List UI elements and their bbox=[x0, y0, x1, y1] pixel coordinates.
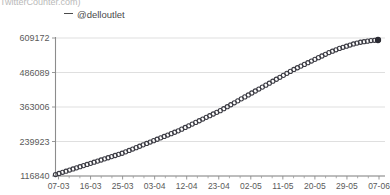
x-tick-label: 29-05 bbox=[336, 181, 358, 191]
x-tick-label: 23-04 bbox=[208, 181, 230, 191]
data-point bbox=[375, 37, 380, 42]
y-tick-label: 609172 bbox=[19, 33, 49, 43]
y-tick-label: 363006 bbox=[19, 102, 49, 112]
y-tick-label: 486089 bbox=[19, 68, 49, 78]
y-axis: 116840239923363006486089609172 bbox=[19, 33, 55, 181]
x-tick-label: 11-05 bbox=[272, 181, 293, 191]
chart-container: TwitterCounter.com) @delloutlet 11684023… bbox=[0, 0, 390, 195]
x-tick-label: 07-06 bbox=[368, 181, 390, 191]
x-tick-label: 07-03 bbox=[48, 181, 70, 191]
y-tick-label: 116840 bbox=[20, 171, 49, 181]
x-tick-label: 12-04 bbox=[176, 181, 198, 191]
x-axis: 07-0316-0325-0303-0412-0423-0402-0511-05… bbox=[48, 176, 390, 191]
x-tick-label: 25-03 bbox=[112, 181, 134, 191]
chart-canvas: 116840239923363006486089609172 07-0316-0… bbox=[0, 0, 390, 195]
gridlines bbox=[56, 38, 386, 176]
x-tick-label: 03-04 bbox=[144, 181, 166, 191]
x-tick-label: 16-03 bbox=[80, 181, 102, 191]
x-tick-label: 20-05 bbox=[304, 181, 326, 191]
y-tick-label: 239923 bbox=[19, 137, 49, 147]
x-tick-label: 02-05 bbox=[240, 181, 262, 191]
